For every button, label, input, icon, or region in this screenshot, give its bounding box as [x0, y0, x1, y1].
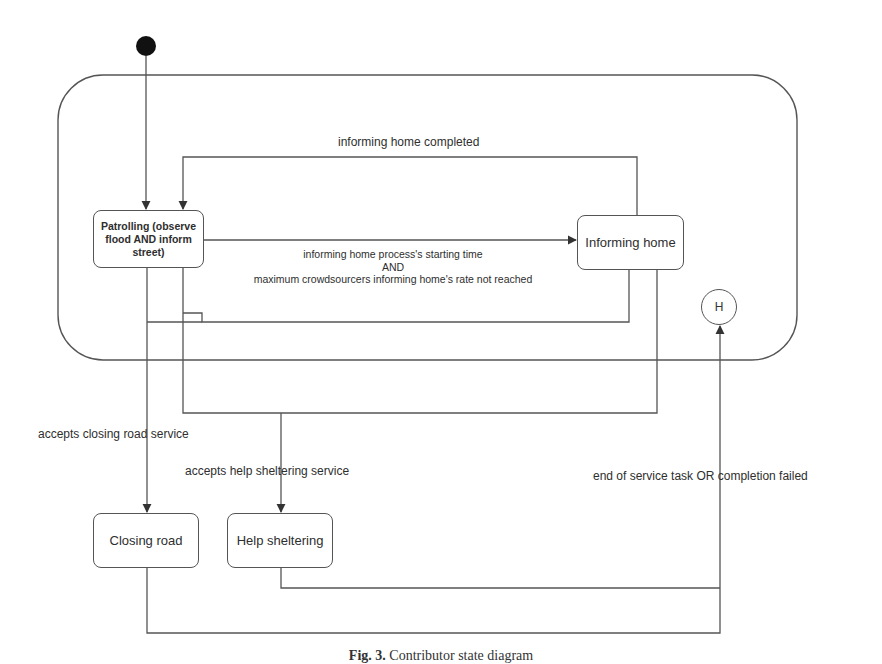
state-patrolling: Patrolling (observe flood AND inform str…	[93, 210, 204, 268]
label-start-line-1: informing home process's starting time	[228, 248, 558, 261]
label-accepts-closing-road: accepts closing road service	[38, 427, 189, 441]
history-state-icon: H	[701, 289, 737, 325]
state-informing-home: Informing home	[577, 215, 684, 270]
state-closing-road-label: Closing road	[110, 533, 183, 548]
label-end-of-service: end of service task OR completion failed	[593, 469, 808, 483]
transition-service-junction	[183, 268, 657, 413]
history-state-label: H	[715, 300, 724, 314]
state-patrolling-label: Patrolling (observe flood AND inform str…	[98, 220, 199, 259]
label-start-line-2: AND	[228, 261, 558, 274]
figure-caption: Fig. 3. Contributor state diagram	[0, 648, 882, 664]
figure-caption-prefix: Fig. 3.	[349, 648, 386, 663]
state-informing-home-label: Informing home	[585, 235, 675, 250]
initial-state-icon	[136, 36, 156, 56]
state-closing-road: Closing road	[93, 513, 199, 568]
state-help-sheltering: Help sheltering	[227, 513, 333, 568]
label-informing-home-completed: informing home completed	[338, 135, 479, 149]
transition-informing-home-completed	[183, 157, 637, 215]
transition-help-sheltering-end	[281, 568, 720, 588]
label-start-informing-home: informing home process's starting time A…	[228, 248, 558, 286]
figure-caption-text: Contributor state diagram	[389, 648, 533, 663]
label-accepts-help-sheltering: accepts help sheltering service	[185, 464, 349, 478]
state-help-sheltering-label: Help sheltering	[237, 533, 324, 548]
label-start-line-3: maximum crowdsourcers informing home's r…	[228, 273, 558, 286]
